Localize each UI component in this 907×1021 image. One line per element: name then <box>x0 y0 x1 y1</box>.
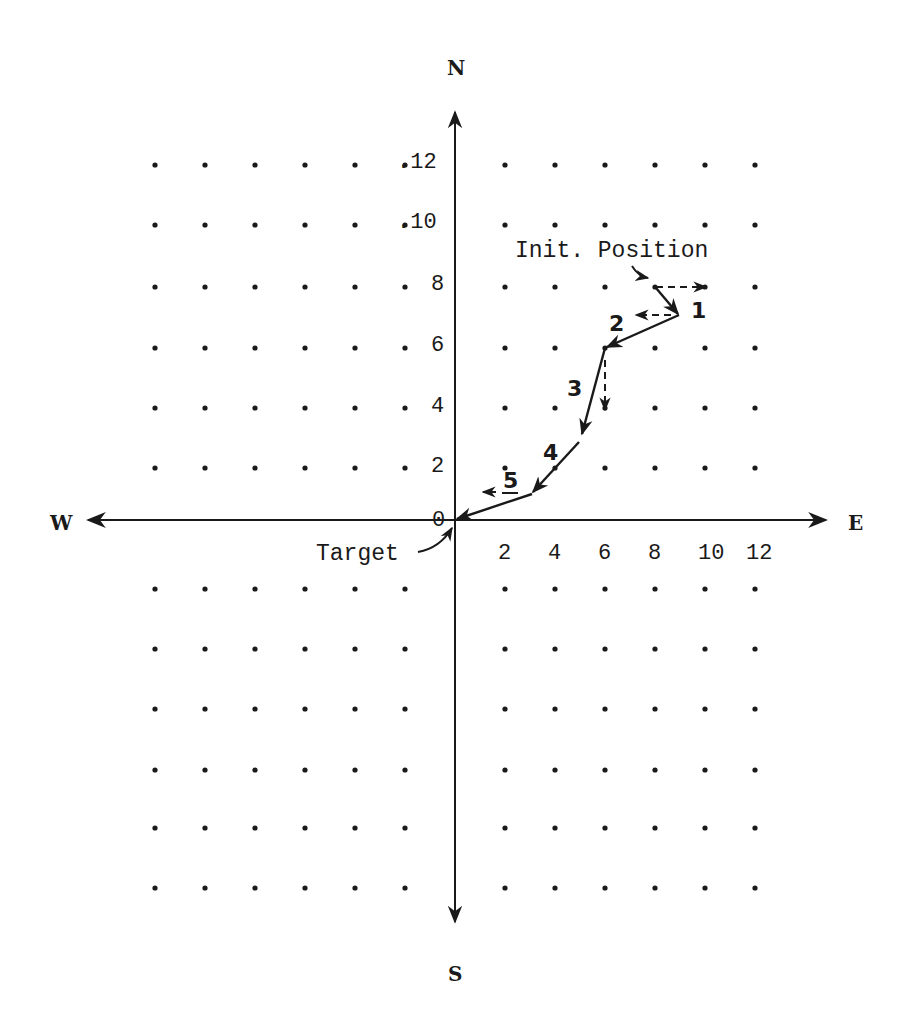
east-label: E <box>848 513 863 533</box>
grid-dot <box>752 405 757 410</box>
grid-dot <box>352 465 357 470</box>
grid-dot <box>502 767 507 772</box>
init-position-label: Init. Position <box>515 240 708 263</box>
segment-init-to-1 <box>656 288 678 314</box>
grid-dot <box>252 646 257 651</box>
grid-dot <box>202 646 207 651</box>
grid-dot <box>302 646 307 651</box>
grid-dot <box>652 465 657 470</box>
x-tick-12: 12 <box>746 543 772 565</box>
grid-dot <box>602 222 607 227</box>
grid-dot <box>352 222 357 227</box>
path-segments <box>457 288 679 519</box>
grid-dot <box>702 646 707 651</box>
grid-dot <box>702 767 707 772</box>
x-tick-10: 10 <box>698 543 724 565</box>
grid-dot <box>252 767 257 772</box>
grid-dot <box>402 465 407 470</box>
grid-dot <box>552 646 557 651</box>
grid-dot <box>302 405 307 410</box>
grid-dot <box>702 885 707 890</box>
segment-2-to-3 <box>582 348 605 434</box>
grid-dot <box>252 162 257 167</box>
y-tick-8: 8 <box>431 274 444 296</box>
grid-dot <box>552 825 557 830</box>
grid-dot <box>302 345 307 350</box>
grid-dot <box>552 767 557 772</box>
south-label: S <box>448 964 462 984</box>
diagram-canvas <box>0 0 907 1021</box>
grid-dot <box>652 162 657 167</box>
grid-dot <box>302 825 307 830</box>
grid-dot <box>502 646 507 651</box>
grid-dot <box>202 284 207 289</box>
grid-dot <box>602 706 607 711</box>
grid-dot <box>152 706 157 711</box>
grid-dot <box>652 706 657 711</box>
grid-dot <box>552 885 557 890</box>
step-2-label: 2 <box>609 313 624 335</box>
grid-dot <box>702 162 707 167</box>
grid-dot <box>552 162 557 167</box>
grid-dot <box>152 162 157 167</box>
grid-dot <box>302 162 307 167</box>
grid-dot <box>202 405 207 410</box>
grid-dot <box>352 885 357 890</box>
grid-dot <box>752 767 757 772</box>
grid-dot <box>552 586 557 591</box>
grid-dot <box>352 767 357 772</box>
grid-dot <box>602 465 607 470</box>
grid-dot <box>752 284 757 289</box>
grid-dot <box>152 767 157 772</box>
grid-dot <box>252 825 257 830</box>
grid-dot <box>652 767 657 772</box>
y-tick-4: 4 <box>431 396 444 418</box>
grid-dot <box>402 586 407 591</box>
grid-dot <box>402 706 407 711</box>
grid-dot <box>152 825 157 830</box>
grid-dot <box>602 767 607 772</box>
grid-dot <box>552 405 557 410</box>
grid-dot <box>352 284 357 289</box>
step-4-label: 4 <box>543 442 558 464</box>
grid-dot <box>752 465 757 470</box>
grid-dot <box>202 222 207 227</box>
grid-dot <box>202 465 207 470</box>
grid-dot <box>752 345 757 350</box>
grid-dot <box>752 706 757 711</box>
step-5-label: 5 <box>503 470 518 492</box>
grid-dot <box>502 345 507 350</box>
grid-dot <box>652 222 657 227</box>
grid-dot <box>252 465 257 470</box>
grid-dot <box>352 586 357 591</box>
grid-dot <box>652 646 657 651</box>
grid-dot <box>702 706 707 711</box>
grid-dot <box>202 885 207 890</box>
grid-dot <box>652 825 657 830</box>
grid-dot <box>502 284 507 289</box>
grid-dot <box>252 885 257 890</box>
grid-dot <box>552 222 557 227</box>
grid-dot <box>502 586 507 591</box>
grid-dot <box>152 586 157 591</box>
grid-dot <box>352 405 357 410</box>
grid-dot <box>302 465 307 470</box>
grid-dot <box>602 162 607 167</box>
grid-dot <box>252 586 257 591</box>
y-tick-6: 6 <box>431 335 444 357</box>
y-tick-2: 2 <box>431 456 444 478</box>
grid-dot <box>352 345 357 350</box>
grid-dot <box>602 646 607 651</box>
grid-dot <box>752 586 757 591</box>
grid-dot <box>502 162 507 167</box>
grid-dot <box>652 345 657 350</box>
grid-dot <box>302 222 307 227</box>
grid-dot <box>202 767 207 772</box>
grid-dot <box>202 162 207 167</box>
grid-dot <box>702 825 707 830</box>
grid-dot <box>702 465 707 470</box>
grid-dot <box>702 345 707 350</box>
grid-dot <box>202 345 207 350</box>
y-tick-12: .12 <box>397 152 437 174</box>
grid-dot <box>702 586 707 591</box>
